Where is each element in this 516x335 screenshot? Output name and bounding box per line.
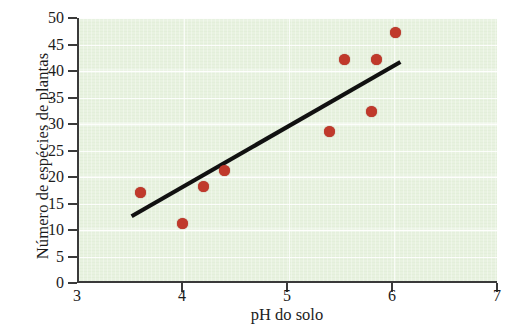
data-point (390, 27, 401, 38)
y-axis-tick-mark (68, 229, 77, 231)
scatter-plot-figure: Número de espécies de plantas pH do solo… (0, 0, 516, 335)
y-axis-tick-label: 20 (30, 169, 64, 185)
gridline-horizontal (79, 230, 497, 231)
data-point (135, 187, 146, 198)
gridline-vertical (394, 18, 395, 281)
paper-texture (79, 18, 497, 281)
y-axis-tick-label: 5 (30, 249, 64, 265)
y-axis-tick-label: 25 (30, 143, 64, 159)
y-axis-tick-mark (68, 44, 77, 46)
data-point (177, 218, 188, 229)
gridline-horizontal (79, 98, 497, 99)
x-axis-tick-label: 7 (482, 287, 512, 305)
y-axis-tick-mark (68, 17, 77, 19)
y-axis-tick-mark (68, 97, 77, 99)
gridline-horizontal (79, 18, 497, 19)
y-axis-tick-label: 40 (30, 63, 64, 79)
y-axis-tick-mark (68, 150, 77, 152)
y-axis-tick-label: 10 (30, 222, 64, 238)
x-axis-title: pH do solo (77, 305, 497, 325)
gridline-horizontal (79, 257, 497, 258)
y-axis-tick-label: 15 (30, 196, 64, 212)
y-axis-tick-mark (68, 176, 77, 178)
y-axis-tick-mark (68, 282, 77, 284)
y-axis-tick-mark (68, 70, 77, 72)
x-axis-tick-label: 5 (272, 287, 302, 305)
gridline-horizontal (79, 71, 497, 72)
y-axis-tick-mark (68, 123, 77, 125)
gridline-vertical (289, 18, 290, 281)
gridline-horizontal (79, 45, 497, 46)
y-axis-tick-label: 35 (30, 90, 64, 106)
data-point (198, 181, 209, 192)
y-axis-tick-mark (68, 203, 77, 205)
data-point (324, 126, 335, 137)
x-axis-tick-label: 3 (62, 287, 92, 305)
y-axis-tick-mark (68, 256, 77, 258)
gridline-horizontal (79, 124, 497, 125)
x-axis-tick-label: 6 (377, 287, 407, 305)
y-axis-tick-label: 45 (30, 37, 64, 53)
gridline-horizontal (79, 177, 497, 178)
x-axis-tick-label: 4 (167, 287, 197, 305)
data-point (371, 54, 382, 65)
plot-area (77, 18, 497, 283)
y-axis-tick-label: 50 (30, 10, 64, 26)
y-axis-tick-label: 0 (30, 275, 64, 291)
gridline-horizontal (79, 204, 497, 205)
y-axis-tick-label: 30 (30, 116, 64, 132)
data-point (219, 165, 230, 176)
gridline-vertical (184, 18, 185, 281)
data-point (339, 54, 350, 65)
data-point (366, 106, 377, 117)
gridline-horizontal (79, 151, 497, 152)
